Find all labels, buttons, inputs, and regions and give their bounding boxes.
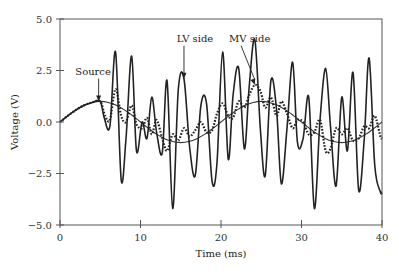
y-tick-label: 2.5 — [36, 65, 52, 76]
x-axis-title: Time (ms) — [196, 248, 247, 259]
series-mv-side-line — [60, 85, 382, 153]
y-axis-title: Voltage (V) — [9, 94, 20, 151]
annotation-label: LV side — [177, 33, 214, 44]
y-tick-label: 5.0 — [36, 14, 52, 25]
voltage-time-chart: 5.02.50.0−2.5−5.0 010203040 Time (ms) Vo… — [0, 0, 399, 276]
y-tick-label: −2.5 — [28, 168, 52, 179]
arrowhead-icon — [181, 73, 186, 79]
series-lv-side-line — [60, 39, 382, 209]
x-tick-label: 10 — [134, 232, 147, 243]
arrowhead-icon — [250, 78, 255, 84]
x-tick-label: 30 — [295, 232, 308, 243]
y-tick-label: −5.0 — [28, 220, 52, 231]
x-tick-label: 40 — [376, 232, 389, 243]
x-tick-label: 20 — [215, 232, 228, 243]
x-tick-label: 0 — [57, 232, 63, 243]
annotation-label: MV side — [229, 33, 270, 44]
plot-series — [60, 39, 382, 209]
x-axis: 010203040 — [57, 220, 389, 243]
y-axis: 5.02.50.0−2.5−5.0 — [28, 14, 64, 231]
annotation-label: Source — [75, 66, 111, 77]
y-tick-label: 0.0 — [36, 117, 52, 128]
